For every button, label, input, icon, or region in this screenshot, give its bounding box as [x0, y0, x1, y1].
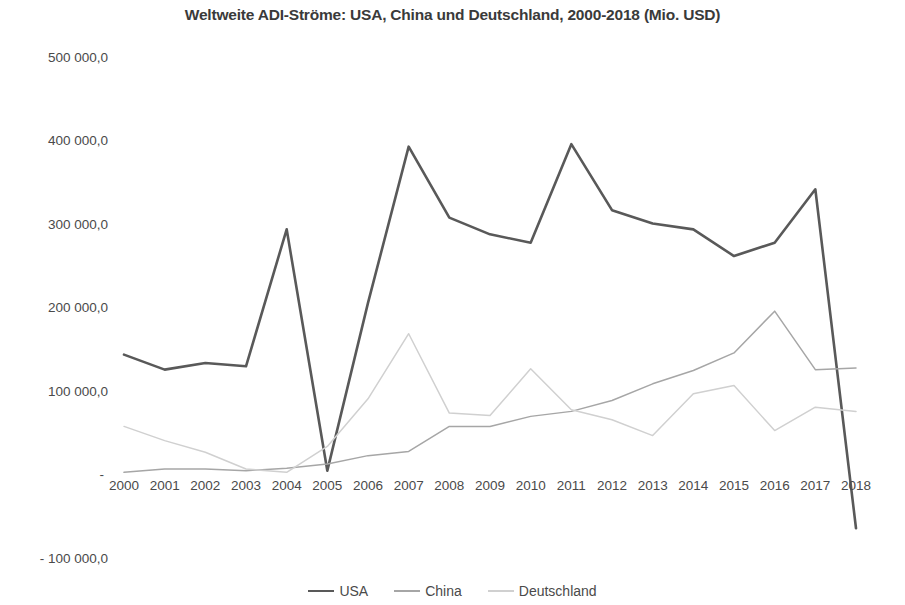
x-tick-label: 2018 [841, 478, 871, 493]
chart-container: Weltweite ADI-Ströme: USA, China und Deu… [0, 0, 905, 605]
chart-legend: USAChinaDeutschland [0, 583, 905, 599]
x-tick-label: 2014 [678, 478, 708, 493]
legend-item-usa[interactable]: USA [308, 583, 368, 599]
x-tick-label: 2013 [638, 478, 668, 493]
x-tick-label: 2003 [231, 478, 261, 493]
x-tick-label: 2002 [190, 478, 220, 493]
x-tick-label: 2010 [516, 478, 546, 493]
x-tick-label: 2004 [272, 478, 302, 493]
x-tick-label: 2000 [109, 478, 139, 493]
legend-swatch-icon [488, 590, 514, 592]
x-tick-label: 2007 [394, 478, 424, 493]
x-tick-label: 2009 [475, 478, 505, 493]
legend-item-china[interactable]: China [394, 583, 462, 599]
x-tick-label: 2001 [150, 478, 180, 493]
legend-label: Deutschland [519, 583, 597, 599]
x-tick-label: 2008 [434, 478, 464, 493]
legend-item-deutschland[interactable]: Deutschland [488, 583, 597, 599]
x-tick-label: 2006 [353, 478, 383, 493]
x-tick-label: 2016 [760, 478, 790, 493]
legend-swatch-icon [394, 590, 420, 592]
legend-swatch-icon [308, 590, 334, 592]
x-tick-label: 2011 [557, 478, 586, 493]
legend-label: China [425, 583, 462, 599]
x-tick-label: 2015 [719, 478, 749, 493]
x-axis: 2000200120022003200420052006200720082009… [0, 0, 905, 605]
x-tick-label: 2005 [312, 478, 342, 493]
x-tick-label: 2017 [800, 478, 830, 493]
legend-label: USA [339, 583, 368, 599]
x-tick-label: 2012 [597, 478, 627, 493]
